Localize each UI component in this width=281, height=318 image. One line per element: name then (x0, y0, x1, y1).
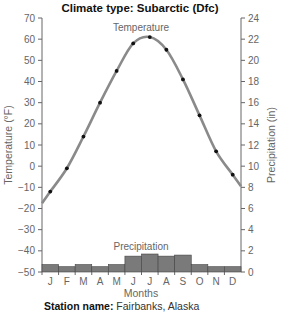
temperature-point (48, 190, 52, 194)
temperature-line (42, 37, 241, 203)
precipitation-bar (208, 267, 225, 272)
left-tick-label: 60 (24, 34, 36, 45)
temperature-point (82, 135, 86, 139)
precipitation-bar (59, 267, 76, 272)
month-label: M (112, 276, 120, 287)
temperature-point (214, 149, 218, 153)
temperature-point (115, 69, 119, 73)
month-label: D (229, 276, 236, 287)
month-label: A (97, 276, 104, 287)
right-tick-label: 0 (248, 267, 254, 278)
left-tick-label: 20 (24, 118, 36, 129)
month-label: J (48, 276, 53, 287)
right-tick-label: 12 (248, 140, 260, 151)
left-tick-label: 10 (24, 140, 36, 151)
x-axis-title: Months (124, 287, 158, 299)
right-tick-label: 16 (248, 97, 260, 108)
precipitation-bar (191, 265, 208, 272)
right-tick-label: 6 (248, 203, 254, 214)
left-tick-label: 30 (24, 97, 36, 108)
right-tick-label: 22 (248, 34, 260, 45)
temperature-point (65, 166, 69, 170)
left-tick-label: 70 (24, 13, 36, 24)
right-tick-label: 2 (248, 245, 254, 256)
left-tick-label: −10 (18, 182, 35, 193)
month-label: S (180, 276, 187, 287)
temperature-point (198, 113, 202, 117)
right-tick-label: 10 (248, 161, 260, 172)
station-caption: Station name: Fairbanks, Alaska (44, 300, 199, 312)
month-label: J (147, 276, 152, 287)
left-tick-label: 50 (24, 55, 36, 66)
precipitation-bar (158, 256, 175, 272)
left-axis-title: Temperature (°F) (2, 105, 14, 184)
right-tick-label: 14 (248, 118, 260, 129)
month-label: J (131, 276, 136, 287)
month-label: N (213, 276, 220, 287)
precipitation-bar (75, 265, 92, 272)
precipitation-bar (42, 265, 59, 272)
climate-chart: Climate type: Subarctic (Dfc)70605040302… (0, 0, 281, 318)
left-tick-label: 0 (29, 161, 35, 172)
right-tick-label: 4 (248, 224, 254, 235)
temperature-point (98, 101, 102, 105)
month-label: O (196, 276, 204, 287)
left-tick-label: −20 (18, 203, 35, 214)
precipitation-bar (92, 267, 109, 272)
temperature-point (148, 35, 152, 39)
temperature-point (131, 42, 135, 46)
right-tick-label: 20 (248, 55, 260, 66)
precipitation-bar (224, 267, 241, 272)
left-tick-label: −50 (18, 267, 35, 278)
temperature-point (164, 48, 168, 52)
right-axis-title: Precipitation (in) (265, 107, 277, 183)
left-tick-label: −30 (18, 224, 35, 235)
temperature-label: Temperature (113, 22, 170, 33)
month-label: F (64, 276, 70, 287)
precipitation-bar (142, 254, 159, 272)
station-label: Station name: (44, 300, 113, 312)
month-label: M (79, 276, 87, 287)
precipitation-bar (108, 265, 125, 272)
temperature-point (231, 173, 235, 177)
precipitation-label: Precipitation (113, 241, 168, 252)
left-tick-label: 40 (24, 76, 36, 87)
temperature-point (181, 77, 185, 81)
precipitation-bar (125, 256, 142, 272)
precipitation-bar (175, 255, 192, 272)
left-tick-label: −40 (18, 245, 35, 256)
right-tick-label: 8 (248, 182, 254, 193)
month-label: A (163, 276, 170, 287)
right-tick-label: 18 (248, 76, 260, 87)
chart-title: Climate type: Subarctic (Dfc) (61, 2, 218, 14)
right-tick-label: 24 (248, 13, 260, 24)
station-value: Fairbanks, Alaska (116, 300, 199, 312)
